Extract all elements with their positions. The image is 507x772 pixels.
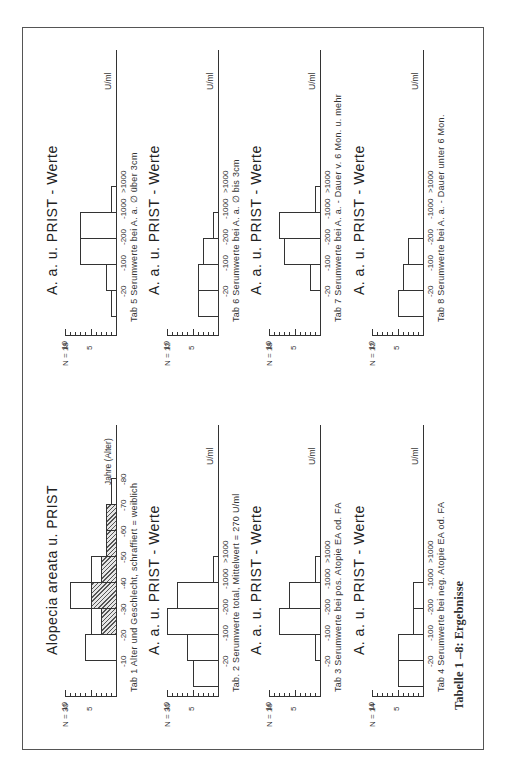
axis-tick xyxy=(218,329,219,336)
tick-label-5: 5 xyxy=(85,707,94,711)
bin-label: -30 xyxy=(119,603,128,615)
n-label: N = 16 xyxy=(265,703,274,727)
histogram-bar xyxy=(203,238,219,265)
axis-tick xyxy=(198,332,199,336)
bin-label: -200 xyxy=(323,599,332,615)
x-axis-unit-label: U/ml xyxy=(205,73,215,90)
axis-tick xyxy=(187,332,188,336)
axis-tick xyxy=(295,690,296,697)
axis-tick xyxy=(295,329,296,336)
tick-label-5: 5 xyxy=(289,707,298,711)
axis-tick xyxy=(70,693,71,697)
axis-tick xyxy=(403,693,404,697)
axis-tick xyxy=(320,690,321,697)
histogram-bar xyxy=(403,264,424,291)
x-axis-unit-label: U/ml xyxy=(307,448,317,465)
axis-tick xyxy=(372,690,373,697)
chart-caption: Tab 7 Serumwerte bei A. a. - Dauer v. 6 … xyxy=(333,94,343,322)
bin-label: -100 xyxy=(221,255,230,271)
chart-caption: Tab. 2 Serumwerte total, Mittelwert = 27… xyxy=(231,493,241,692)
bin-label: -1000 xyxy=(221,569,230,589)
axis-tick xyxy=(398,690,399,697)
bin-label: -200 xyxy=(221,599,230,615)
axis-tick xyxy=(70,332,71,336)
axis-tick xyxy=(208,332,209,336)
histogram-bar xyxy=(213,212,219,239)
histogram-bar xyxy=(167,608,219,635)
histogram-bar xyxy=(177,582,219,609)
axis-tick xyxy=(80,332,81,336)
tick-label-5: 5 xyxy=(187,707,196,711)
bin-label: -200 xyxy=(221,229,230,245)
chart-caption: Tab 6 Serumwerte bei A. a. ∅ bis 3cm xyxy=(231,159,241,322)
bin-label: -100 xyxy=(426,255,435,271)
axis-tick xyxy=(116,329,117,336)
axis-tick xyxy=(372,329,373,336)
axis-tick xyxy=(91,690,92,697)
bin-label: -100 xyxy=(119,255,128,271)
histogram-bar xyxy=(398,290,425,317)
histogram-bar xyxy=(193,660,220,687)
axis-tick xyxy=(172,693,173,697)
histogram-bar xyxy=(398,660,425,687)
axis-tick xyxy=(106,693,107,697)
axis-tick xyxy=(75,332,76,336)
axis-tick xyxy=(300,693,301,697)
x-axis-unit-label: U/ml xyxy=(410,448,420,465)
bin-label: -60 xyxy=(119,525,128,537)
histogram-bar xyxy=(279,608,321,635)
chart-title: A. a. u. PRIST - Werte xyxy=(351,145,367,295)
axis-tick xyxy=(182,693,183,697)
histogram-bar xyxy=(213,556,219,583)
histogram-bar xyxy=(85,634,117,661)
bin-label: -200 xyxy=(426,229,435,245)
axis-tick xyxy=(392,332,393,336)
histogram-bar xyxy=(111,290,117,317)
axis-tick xyxy=(382,693,383,697)
histogram-bar-female xyxy=(101,556,117,583)
axis-tick xyxy=(418,693,419,697)
axis-tick xyxy=(213,332,214,336)
axis-tick xyxy=(310,693,311,697)
histogram-bar xyxy=(284,238,321,265)
histogram-bar xyxy=(111,186,117,213)
bin-label: -1000 xyxy=(323,199,332,219)
axis-tick xyxy=(177,693,178,697)
bin-label: -70 xyxy=(119,499,128,511)
histogram-bar xyxy=(315,556,321,583)
axis-tick xyxy=(387,332,388,336)
histogram-bar xyxy=(80,212,117,239)
bin-label: -20 xyxy=(426,655,435,667)
axis-tick xyxy=(182,332,183,336)
axis-tick xyxy=(392,693,393,697)
bin-label: -80 xyxy=(119,473,128,485)
axis-tick xyxy=(310,332,311,336)
axis-tick xyxy=(167,690,168,697)
n-label: N = 14 xyxy=(368,703,377,727)
histogram-bar-female xyxy=(91,582,118,609)
axis-tick xyxy=(203,693,204,697)
axis-tick xyxy=(284,332,285,336)
axis-tick xyxy=(96,332,97,336)
axis-tick xyxy=(377,693,378,697)
axis-tick xyxy=(167,329,168,336)
axis-tick xyxy=(377,332,378,336)
x-axis-unit-label: U/ml xyxy=(205,448,215,465)
bin-label: -40 xyxy=(119,577,128,589)
histogram-bar-female xyxy=(101,608,117,635)
rotated-figure-canvas: Tabelle 1 –8: Ergebnisse 510N = 30-10-20… xyxy=(22,25,484,750)
chart-title: A. a. u. PRIST - Werte xyxy=(248,145,264,295)
axis-tick xyxy=(403,332,404,336)
axis-tick xyxy=(423,329,424,336)
bin-label: -20 xyxy=(119,285,128,297)
histogram-bar-female xyxy=(106,504,117,531)
x-axis-unit-label: U/ml xyxy=(307,73,317,90)
histogram-bar xyxy=(413,582,424,609)
axis-tick xyxy=(111,332,112,336)
axis-tick xyxy=(85,332,86,336)
chart-title: A. a. u. PRIST - Werte xyxy=(44,145,60,295)
axis-tick xyxy=(80,693,81,697)
tick-label-5: 5 xyxy=(187,346,196,350)
axis-tick xyxy=(284,693,285,697)
axis-tick xyxy=(274,332,275,336)
